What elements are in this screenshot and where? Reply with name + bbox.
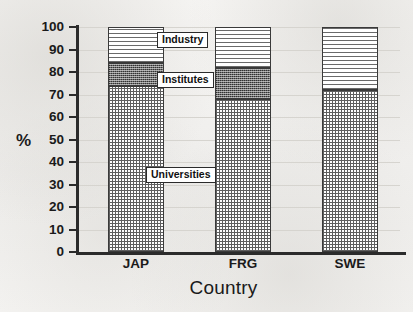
x-tick-label-FRG: FRG: [203, 256, 283, 271]
y-tick-label-50: 50: [32, 133, 64, 147]
x-axis-line: [76, 252, 406, 255]
y-tick-label-0: 0: [32, 245, 64, 259]
y-tick-label-70: 70: [32, 88, 64, 102]
bar-segment-SWE-universities: [322, 90, 378, 252]
y-tick-40: [69, 161, 77, 163]
bar-segment-JAP-institutes: [108, 63, 164, 86]
y-tick-100: [69, 26, 77, 28]
y-tick-label-60: 60: [32, 110, 64, 124]
legend-label-universities: Universities: [146, 167, 216, 183]
y-tick-80: [69, 71, 77, 73]
y-axis-title: %: [16, 131, 31, 151]
y-tick-label-10: 10: [32, 223, 64, 237]
x-axis-title: Country: [0, 277, 413, 299]
y-tick-90: [69, 49, 77, 51]
legend-label-industry: Industry: [157, 32, 208, 48]
y-tick-60: [69, 116, 77, 118]
y-tick-30: [69, 184, 77, 186]
y-tick-20: [69, 206, 77, 208]
y-tick-0: [69, 251, 77, 253]
y-tick-10: [69, 229, 77, 231]
bar-segment-FRG-universities: [215, 99, 271, 252]
y-tick-label-90: 90: [32, 43, 64, 57]
bar-segment-FRG-industry: [215, 27, 271, 68]
x-axis-title-text: Country: [190, 277, 258, 298]
y-tick-label-80: 80: [32, 65, 64, 79]
y-tick-70: [69, 94, 77, 96]
legend-label-institutes: Institutes: [157, 72, 214, 88]
bar-segment-SWE-industry: [322, 27, 378, 90]
stacked-bar-chart: Industry Institutes Universities 100 90 …: [0, 0, 413, 312]
bar-segment-JAP-industry: [108, 27, 164, 63]
y-tick-label-20: 20: [32, 200, 64, 214]
y-tick-label-100: 100: [32, 20, 64, 34]
x-tick-label-SWE: SWE: [310, 256, 390, 271]
bar-segment-FRG-institutes: [215, 68, 271, 100]
plot-area: Industry Institutes Universities: [78, 27, 400, 252]
y-tick-50: [69, 139, 77, 141]
x-tick-label-JAP: JAP: [96, 256, 176, 271]
y-tick-label-30: 30: [32, 178, 64, 192]
y-tick-label-40: 40: [32, 155, 64, 169]
